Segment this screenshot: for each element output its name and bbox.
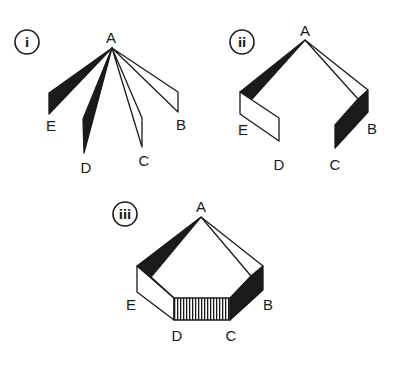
vertex-label-c: C xyxy=(330,156,341,173)
numeral-badge-ii: ii xyxy=(230,30,254,54)
apex-label-a: A xyxy=(300,22,310,39)
flap-ae-dark xyxy=(137,217,201,277)
face-dc-hatched xyxy=(174,298,230,320)
vertex-label-e: E xyxy=(46,117,56,134)
numeral-label: ii xyxy=(238,36,246,50)
apex-label-a: A xyxy=(196,198,206,215)
flap-ae-dark xyxy=(240,40,305,99)
panel-i: i A E D C B xyxy=(15,29,186,176)
vertex-label-b: B xyxy=(367,120,377,137)
face-bc-dark xyxy=(230,266,263,320)
vertex-label-c: C xyxy=(139,152,150,169)
face-bc-dark xyxy=(335,90,368,148)
vertex-label-c: C xyxy=(226,327,237,344)
edge-ab-outer xyxy=(201,217,263,266)
edge-ab-inner xyxy=(305,40,358,99)
panel-iii: iii A E D C B xyxy=(113,198,273,344)
panel-ii: ii A E D C B xyxy=(230,22,377,173)
edge-ab-inner xyxy=(201,217,251,276)
apex-label-a: A xyxy=(106,29,116,46)
numeral-label: iii xyxy=(119,208,131,222)
numeral-label: i xyxy=(25,36,29,50)
vertex-label-d: D xyxy=(81,159,92,176)
edge-ab-outer xyxy=(305,40,368,90)
vertex-label-b: B xyxy=(176,116,186,133)
pyramid-folding-diagram: i A E D C B ii A E D C B xyxy=(0,0,393,366)
numeral-badge-i: i xyxy=(15,30,39,54)
vertex-label-e: E xyxy=(126,296,136,313)
vertex-label-d: D xyxy=(274,156,285,173)
numeral-badge-iii: iii xyxy=(113,202,137,226)
vertex-label-b: B xyxy=(263,296,273,313)
vertex-label-d: D xyxy=(172,327,183,344)
vertex-label-e: E xyxy=(238,121,248,138)
